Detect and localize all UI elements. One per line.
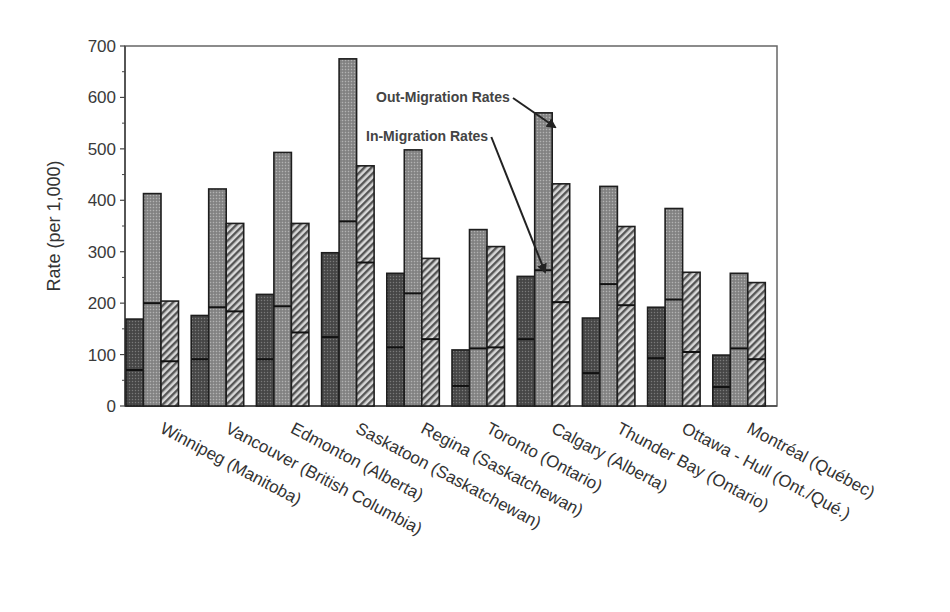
bar xyxy=(665,209,683,406)
bar-group xyxy=(126,194,179,406)
bar xyxy=(730,273,748,406)
bar xyxy=(144,194,162,406)
bar-group xyxy=(517,113,570,406)
bar-group xyxy=(648,209,701,406)
bars xyxy=(126,59,765,406)
bar xyxy=(470,230,488,406)
bar xyxy=(617,227,635,406)
bar xyxy=(552,184,570,406)
y-tick-label: 500 xyxy=(88,140,116,159)
bar-group xyxy=(256,152,309,406)
bar xyxy=(487,247,505,406)
bar-group xyxy=(387,150,440,406)
y-tick-label: 300 xyxy=(88,243,116,262)
bar xyxy=(161,301,179,406)
bar-group xyxy=(452,230,505,406)
bar xyxy=(357,166,375,406)
bar xyxy=(648,307,666,406)
y-tick-label: 200 xyxy=(88,294,116,313)
x-axis-category-labels: Winnipeg (Manitoba)Vancouver (British Co… xyxy=(157,419,878,539)
y-tick-label: 100 xyxy=(88,346,116,365)
bar xyxy=(517,276,535,406)
x-category-label: Calgary (Alberta) xyxy=(548,419,670,496)
bar xyxy=(452,350,470,406)
bar-group xyxy=(191,189,244,406)
bar xyxy=(582,318,600,406)
bar xyxy=(683,272,701,406)
y-tick-label: 400 xyxy=(88,191,116,210)
bar xyxy=(126,319,144,406)
migration-rate-bar-chart: 0100200300400500600700 Winnipeg (Manitob… xyxy=(0,0,950,612)
y-tick-label: 700 xyxy=(88,37,116,56)
bar xyxy=(713,355,731,406)
bar xyxy=(226,223,244,406)
bar xyxy=(291,223,309,406)
bar xyxy=(191,315,209,406)
annotation-label: Out-Migration Rates xyxy=(376,89,510,105)
y-axis-title: Rate (per 1,000) xyxy=(44,160,64,291)
bar xyxy=(209,189,227,406)
annotation-label: In-Migration Rates xyxy=(366,128,488,144)
bar xyxy=(256,294,274,406)
bar-group xyxy=(582,186,635,406)
bar xyxy=(535,113,553,406)
bar xyxy=(600,186,618,406)
bar xyxy=(748,283,766,406)
y-tick-label: 600 xyxy=(88,88,116,107)
annotations: Out-Migration RatesIn-Migration Rates xyxy=(366,89,555,272)
bar xyxy=(339,59,357,406)
bar xyxy=(422,258,440,406)
y-tick-label: 0 xyxy=(107,397,116,416)
bar xyxy=(322,253,340,406)
bar-group xyxy=(713,273,766,406)
bar xyxy=(274,152,292,406)
bar xyxy=(404,150,422,406)
bar-group xyxy=(322,59,375,406)
bar xyxy=(387,273,405,406)
